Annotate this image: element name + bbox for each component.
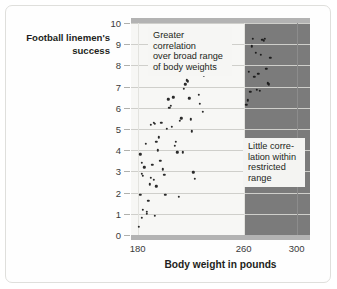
data-point <box>184 83 186 85</box>
data-point <box>175 141 177 143</box>
data-point <box>148 183 150 185</box>
data-point <box>162 168 164 170</box>
y-tick-mark-0 <box>124 235 130 236</box>
y-tick-label-9: 9 <box>116 39 121 50</box>
data-point <box>197 94 199 96</box>
data-point <box>176 151 178 153</box>
y-tick-mark-5 <box>124 129 130 130</box>
plot-bottom-band <box>131 235 310 240</box>
data-point <box>172 96 174 98</box>
data-point <box>189 118 191 120</box>
gridline-y-1 <box>131 214 310 215</box>
data-point <box>139 194 141 196</box>
data-point <box>201 111 203 113</box>
data-point <box>144 143 146 145</box>
y-tick-mark-10 <box>124 23 130 24</box>
y-tick-mark-7 <box>124 87 130 88</box>
y-tick-mark-1 <box>124 214 130 215</box>
figure-root: Football linemen's success 012345678910 … <box>0 0 337 289</box>
y-tick-label-3: 3 <box>116 166 121 177</box>
data-point <box>151 164 153 166</box>
x-axis-title: Body weight in pounds <box>131 259 310 270</box>
x-tick-label-260: 260 <box>236 243 252 254</box>
gridline-x-260 <box>244 23 245 235</box>
gridline-x-180 <box>138 23 139 235</box>
data-point <box>182 151 184 153</box>
data-point <box>164 194 166 196</box>
y-tick-mark-9 <box>124 44 130 45</box>
data-point <box>167 98 169 100</box>
data-point <box>178 196 180 198</box>
y-tick-label-7: 7 <box>116 81 121 92</box>
data-point <box>139 153 141 155</box>
data-point <box>154 122 156 124</box>
y-tick-label-10: 10 <box>110 18 121 29</box>
data-point <box>193 178 195 180</box>
data-point <box>183 88 185 90</box>
data-point <box>163 173 165 175</box>
data-point <box>171 126 173 128</box>
data-point <box>143 166 145 168</box>
y-tick-label-8: 8 <box>116 60 121 71</box>
data-point <box>142 208 144 210</box>
gridline-y-5 <box>131 129 310 130</box>
gridline-y-2 <box>131 193 310 194</box>
gridline-y-6 <box>131 108 310 109</box>
y-tick-label-1: 1 <box>116 208 121 219</box>
x-tick-label-180: 180 <box>130 243 146 254</box>
data-point <box>191 130 193 132</box>
data-point <box>155 141 157 143</box>
x-tick-label-300: 300 <box>289 243 305 254</box>
data-point <box>147 200 149 202</box>
data-point <box>179 119 181 121</box>
y-tick-label-5: 5 <box>116 124 121 135</box>
gridline-y-10 <box>131 23 310 24</box>
data-point <box>155 185 157 187</box>
data-point <box>140 162 142 164</box>
y-tick-mark-4 <box>124 150 130 151</box>
gridline-x-300 <box>297 23 298 235</box>
data-point <box>158 136 160 138</box>
data-point <box>187 80 189 82</box>
data-point <box>160 121 162 123</box>
data-point <box>152 179 154 181</box>
data-point <box>199 102 201 104</box>
data-point <box>159 160 161 162</box>
y-tick-label-4: 4 <box>116 145 121 156</box>
data-point <box>142 174 144 176</box>
data-point <box>154 215 156 217</box>
data-point <box>188 97 190 99</box>
gridline-y-7 <box>131 87 310 88</box>
y-tick-mark-8 <box>124 65 130 66</box>
broad-range-annotation: Greater correlation over broad range of … <box>148 27 232 76</box>
y-tick-mark-2 <box>124 193 130 194</box>
data-point <box>150 124 152 126</box>
y-tick-mark-3 <box>124 171 130 172</box>
y-tick-label-0: 0 <box>116 230 121 241</box>
y-axis-title: Football linemen's success <box>20 31 110 57</box>
restricted-range-annotation: Little corre- lation within restricted r… <box>243 138 305 187</box>
data-point <box>140 217 142 219</box>
y-tick-label-6: 6 <box>116 102 121 113</box>
y-tick-mark-6 <box>124 108 130 109</box>
data-point <box>174 145 176 147</box>
y-tick-label-2: 2 <box>116 187 121 198</box>
